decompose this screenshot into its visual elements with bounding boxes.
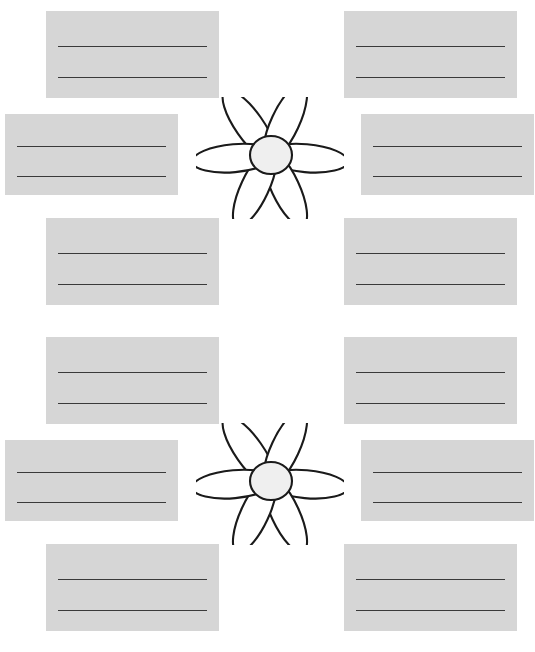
note-box-bottom-left[interactable] xyxy=(46,544,219,631)
note-box-bottom-right[interactable] xyxy=(344,218,517,305)
writing-line-2[interactable] xyxy=(373,176,522,177)
flower-center-circle xyxy=(250,462,292,500)
writing-line-1[interactable] xyxy=(356,372,505,373)
writing-line-2[interactable] xyxy=(17,176,166,177)
flower-icon xyxy=(196,97,344,219)
writing-line-2[interactable] xyxy=(58,77,207,78)
writing-line-2[interactable] xyxy=(356,610,505,611)
worksheet-page xyxy=(0,0,535,652)
writing-line-1[interactable] xyxy=(58,372,207,373)
note-box-top-left[interactable] xyxy=(46,11,219,98)
writing-line-2[interactable] xyxy=(58,610,207,611)
writing-line-1[interactable] xyxy=(356,253,505,254)
writing-line-2[interactable] xyxy=(58,284,207,285)
writing-line-2[interactable] xyxy=(356,77,505,78)
organizer-section-bottom xyxy=(0,326,535,652)
writing-line-2[interactable] xyxy=(17,502,166,503)
note-box-middle-left[interactable] xyxy=(5,440,178,521)
note-box-middle-left[interactable] xyxy=(5,114,178,195)
writing-line-1[interactable] xyxy=(373,472,522,473)
writing-line-1[interactable] xyxy=(356,46,505,47)
note-box-middle-right[interactable] xyxy=(361,114,534,195)
note-box-middle-right[interactable] xyxy=(361,440,534,521)
note-box-top-right[interactable] xyxy=(344,11,517,98)
writing-line-2[interactable] xyxy=(356,284,505,285)
flower-center-circle xyxy=(250,136,292,174)
note-box-top-right[interactable] xyxy=(344,337,517,424)
note-box-bottom-left[interactable] xyxy=(46,218,219,305)
writing-line-1[interactable] xyxy=(58,579,207,580)
writing-line-1[interactable] xyxy=(17,472,166,473)
flower-icon xyxy=(196,423,344,545)
note-box-bottom-right[interactable] xyxy=(344,544,517,631)
note-box-top-left[interactable] xyxy=(46,337,219,424)
writing-line-2[interactable] xyxy=(356,403,505,404)
organizer-section-top xyxy=(0,0,535,326)
writing-line-2[interactable] xyxy=(58,403,207,404)
writing-line-1[interactable] xyxy=(58,46,207,47)
writing-line-1[interactable] xyxy=(373,146,522,147)
writing-line-2[interactable] xyxy=(373,502,522,503)
writing-line-1[interactable] xyxy=(58,253,207,254)
writing-line-1[interactable] xyxy=(356,579,505,580)
writing-line-1[interactable] xyxy=(17,146,166,147)
